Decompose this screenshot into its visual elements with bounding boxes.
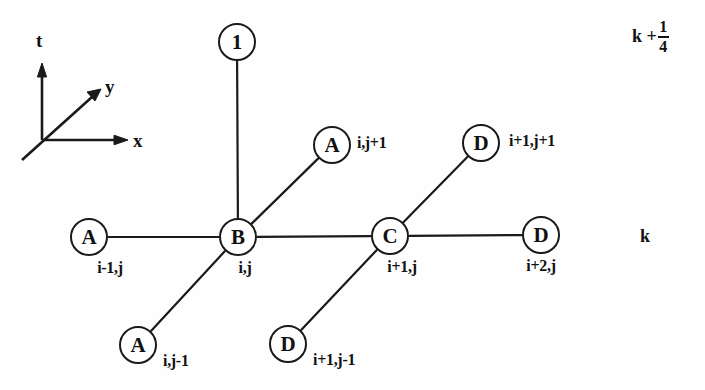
node-d-i-plus-2-j[interactable]: D: [522, 216, 560, 254]
fraction-denominator: 4: [658, 38, 668, 55]
fraction-numerator: 1: [658, 19, 668, 36]
edge-b-i-j-to-top-one: [237, 61, 238, 217]
node-index-label-b-i-j: i,j: [239, 259, 252, 277]
node-a-i-j-minus-1[interactable]: A: [119, 326, 157, 364]
edge-c-i-plus-1-j-to-d-i1-j-minus-1: [301, 250, 376, 330]
edge-b-i-j-to-a-i-j-minus-1: [151, 251, 225, 330]
edge-b-i-j-to-c-i-plus-1-j: [257, 236, 370, 237]
time-level-upper-label: k +14: [632, 20, 669, 56]
x-axis-label: x: [133, 130, 143, 152]
t-axis-label: t: [36, 30, 42, 52]
node-index-label-a-i-minus-1-j: i-1,j: [97, 259, 123, 277]
y-axis-label: y: [105, 76, 115, 98]
quarter-fraction: 14: [658, 19, 669, 55]
node-index-label-c-i-plus-1-j: i+1,j: [387, 258, 416, 276]
node-c-i-plus-1-j[interactable]: C: [371, 217, 409, 255]
edge-b-i-j-to-a-i-j-plus-1: [252, 159, 318, 224]
node-index-label-d-i1-j-plus-1: i+1,j+1: [509, 132, 555, 150]
stencil-edges: [109, 61, 522, 330]
node-top-one[interactable]: 1: [218, 23, 256, 61]
diagram-canvas: t y x k +14 k 1Ai,j+1Di+1,j+1Ai-1,jBi,jC…: [0, 0, 705, 390]
time-level-upper-base: k +: [632, 26, 657, 46]
t-axis-arrowhead: [37, 63, 46, 77]
node-a-i-j-plus-1[interactable]: A: [313, 126, 351, 164]
y-axis-line: [22, 97, 92, 160]
time-level-lower-label: k: [640, 226, 650, 247]
node-d-i1-j-minus-1[interactable]: D: [269, 325, 307, 363]
node-index-label-a-i-j-minus-1: i,j-1: [163, 352, 189, 370]
edge-layer: [0, 0, 705, 390]
node-index-label-d-i-plus-2-j: i+2,j: [526, 257, 555, 275]
x-axis-arrowhead: [114, 135, 128, 145]
node-b-i-j[interactable]: B: [219, 218, 257, 256]
node-index-label-a-i-j-plus-1: i,j+1: [357, 134, 386, 152]
edge-c-i-plus-1-j-to-d-i1-j-plus-1: [404, 157, 468, 222]
node-index-label-d-i1-j-minus-1: i+1,j-1: [313, 351, 355, 369]
node-d-i1-j-plus-1[interactable]: D: [462, 124, 500, 162]
node-a-i-minus-1-j[interactable]: A: [70, 218, 108, 256]
edge-c-i-plus-1-j-to-d-i-plus-2-j: [409, 235, 521, 236]
